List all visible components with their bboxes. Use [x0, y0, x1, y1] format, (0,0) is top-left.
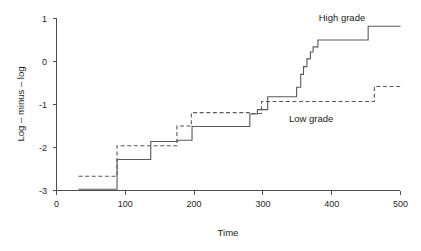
- x-tick-label-200: 200: [187, 199, 202, 209]
- series-label-high-grade: High grade: [319, 12, 365, 23]
- x-axis-ticks: [57, 191, 401, 195]
- series-line-low-grade: [79, 86, 401, 176]
- x-tick-label-500: 500: [393, 199, 408, 209]
- series-line-high-grade: [79, 26, 401, 189]
- y-tick-label-neg1: -1: [39, 100, 47, 110]
- y-tick-label-neg2: -2: [39, 143, 47, 153]
- loglog-step-chart: 1 0 -1 -2 -3 0 100 200 300 400 500 Time …: [0, 0, 421, 251]
- y-axis-ticks: [53, 19, 57, 191]
- chart-figure: 1 0 -1 -2 -3 0 100 200 300 400 500 Time …: [0, 0, 421, 251]
- y-axis-title: Log – minus – log: [15, 67, 26, 142]
- x-axis-title: Time: [218, 227, 239, 238]
- x-tick-label-400: 400: [324, 199, 339, 209]
- x-tick-label-100: 100: [118, 199, 133, 209]
- y-tick-label-1: 1: [42, 14, 47, 24]
- x-tick-label-0: 0: [54, 199, 59, 209]
- x-tick-label-300: 300: [255, 199, 270, 209]
- y-tick-label-0: 0: [42, 57, 47, 67]
- y-tick-label-neg3: -3: [39, 186, 47, 196]
- series-label-low-grade: Low grade: [289, 113, 333, 124]
